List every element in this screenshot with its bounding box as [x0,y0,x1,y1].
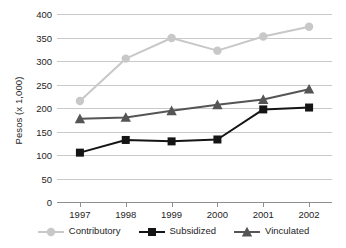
x-tick-label-2000: 2000 [207,209,228,220]
series-line-contributory [80,27,309,101]
data-point-subsidized-1997 [76,149,84,157]
data-point-contributory-2001 [259,32,267,40]
y-tick-label-350: 350 [36,32,52,43]
legend-item-vinculated[interactable]: Vinculated [233,224,309,236]
legend-label-vinculated: Vinculated [265,225,309,236]
y-tick-label-100: 100 [36,150,52,161]
x-tick-label-1999: 1999 [161,209,182,220]
data-point-vinculated-2002 [304,84,314,94]
x-tick-2000 [217,202,218,207]
x-tick-2001 [263,202,264,207]
series-line-subsidized [80,108,309,153]
data-point-subsidized-2001 [259,105,267,113]
x-tick-1997 [80,202,81,207]
x-tick-1999 [172,202,173,207]
data-point-contributory-1999 [167,34,175,42]
gridline-0 [57,202,332,203]
x-tick-1998 [126,202,127,207]
y-tick-label-0: 0 [47,197,52,208]
series-subsidized [76,104,313,157]
legend-label-contributory: Contributory [69,225,121,236]
data-point-subsidized-1998 [122,136,130,144]
y-tick-label-200: 200 [36,103,52,114]
series-layer [57,14,332,202]
x-tick-label-1998: 1998 [115,209,136,220]
y-tick-label-150: 150 [36,126,52,137]
legend-item-contributory[interactable]: Contributory [37,224,121,236]
y-tick-label-300: 300 [36,56,52,67]
y-tick-label-250: 250 [36,79,52,90]
series-vinculated [75,84,315,123]
plot-area: 050100150200250300350400 199719981999200… [57,14,332,202]
x-tick-2002 [309,202,310,207]
data-point-contributory-1997 [76,97,84,105]
legend-swatch-subsidized-square-icon [138,224,166,236]
data-point-subsidized-2000 [213,135,221,143]
x-tick-label-1997: 1997 [69,209,90,220]
series-contributory [76,22,314,105]
data-point-subsidized-1999 [168,137,176,145]
series-line-vinculated [80,89,309,119]
x-tick-label-2001: 2001 [253,209,274,220]
x-tick-label-2002: 2002 [299,209,320,220]
legend-item-subsidized[interactable]: Subsidized [138,224,216,236]
data-point-contributory-2000 [213,46,221,54]
data-point-contributory-2002 [305,22,313,30]
legend-swatch-contributory-circle-icon [37,224,65,236]
y-axis-title: Pesos (x 1,000) [13,31,24,191]
line-chart: Pesos (x 1,000) 050100150200250300350400… [0,0,346,248]
legend-label-subsidized: Subsidized [170,225,216,236]
y-tick-label-50: 50 [41,173,52,184]
legend: ContributorySubsidizedVinculated [0,224,346,236]
data-point-subsidized-2002 [305,104,313,112]
legend-swatch-vinculated-triangle-icon [233,224,261,236]
data-point-contributory-1998 [122,54,130,62]
y-tick-label-400: 400 [36,9,52,20]
